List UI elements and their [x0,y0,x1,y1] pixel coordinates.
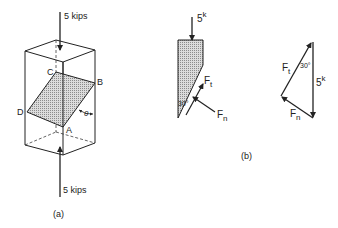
triangle-load-label: 5k [316,78,326,88]
free-body-load-label: 5k [197,14,207,24]
theta-label: θ [84,110,88,118]
triangle-angle-label: 30° [300,62,311,69]
caption-b: (b) [241,152,252,161]
free-body-ft-label: Ft [204,76,212,86]
point-c-label: C [47,68,54,77]
free-body-fn-label: Fn [217,110,228,120]
top-load-label: 5 kips [64,12,88,21]
free-body-angle-label: 30° [178,100,189,107]
point-b-label: B [97,78,103,87]
triangle-ft-label: Ft [282,63,290,73]
force-triangle [281,42,313,118]
diagram-canvas [0,0,338,228]
normal-force-arrow [193,97,215,112]
point-d-label: D [17,108,24,117]
bottom-load-label: 5 kips [63,186,87,195]
inclined-plane [27,72,95,127]
caption-a: (a) [53,210,64,219]
point-a-label: A [66,126,72,135]
triangle-fn-label: Fn [290,109,301,119]
